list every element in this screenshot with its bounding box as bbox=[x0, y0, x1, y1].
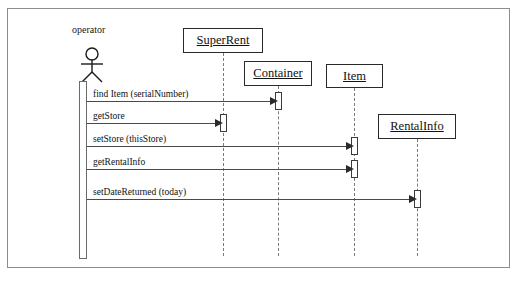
sequence-diagram-canvas: operator SuperRent Container Item Rental… bbox=[0, 0, 526, 283]
lifeline-superrent bbox=[223, 53, 224, 256]
message-arrowhead-getrentalinfo bbox=[346, 165, 354, 173]
participant-box-superrent[interactable]: SuperRent bbox=[183, 28, 263, 53]
participant-box-item[interactable]: Item bbox=[326, 64, 383, 88]
message-arrowhead-setdatereturned bbox=[409, 195, 417, 203]
message-arrowhead-find-item bbox=[270, 97, 278, 105]
message-label-getstore: getStore bbox=[93, 111, 125, 121]
message-label-setdatereturned: setDateReturned (today) bbox=[93, 187, 186, 197]
activation-bar-operator bbox=[79, 81, 87, 259]
message-label-find-item: find Item (serialNumber) bbox=[93, 89, 189, 99]
participant-name: Item bbox=[343, 70, 366, 83]
participant-box-rentalinfo[interactable]: RentalInfo bbox=[378, 114, 456, 139]
message-arrowhead-setstore bbox=[346, 142, 354, 150]
participant-name: Container bbox=[253, 67, 302, 80]
message-arrowhead-getstore bbox=[215, 119, 223, 127]
participant-box-container[interactable]: Container bbox=[244, 61, 312, 86]
message-line-setdatereturned bbox=[87, 199, 410, 200]
diagram-frame: operator SuperRent Container Item Rental… bbox=[7, 8, 510, 268]
participant-name: RentalInfo bbox=[390, 120, 443, 133]
message-line-setstore bbox=[87, 146, 347, 147]
stick-figure-actor-icon bbox=[76, 47, 108, 83]
message-line-find-item bbox=[87, 101, 271, 102]
message-line-getrentalinfo bbox=[87, 169, 347, 170]
lifeline-container bbox=[278, 86, 279, 256]
message-line-getstore bbox=[87, 123, 216, 124]
participant-name: SuperRent bbox=[197, 34, 250, 47]
message-label-setstore: setStore (thisStore) bbox=[93, 134, 166, 144]
actor-label-operator: operator bbox=[72, 24, 105, 35]
message-label-getrentalinfo: getRentalInfo bbox=[93, 157, 145, 167]
